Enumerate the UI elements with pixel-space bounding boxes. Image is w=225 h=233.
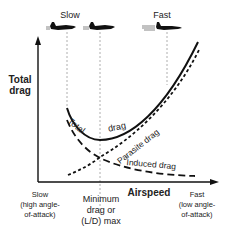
airplane-slow-2-icon — [83, 22, 115, 30]
y-axis-label-line1: Total — [4, 74, 36, 85]
min-drag-annotation-line2: drag or — [76, 205, 126, 216]
slow-annotation-line2: (high angle- — [12, 200, 68, 210]
slow-annotation-line1: Slow — [12, 190, 68, 200]
fast-annotation: Fast (low angle- of-attack) — [170, 190, 224, 220]
fast-annotation-line1: Fast — [170, 190, 224, 200]
total-drag-curve — [67, 42, 198, 140]
y-axis-arrow-icon — [35, 36, 41, 45]
fast-annotation-line3: of-attack) — [170, 210, 224, 220]
min-drag-annotation-line1: Minimum — [76, 194, 126, 205]
min-drag-annotation-line3: (L/D) max — [76, 216, 126, 227]
min-drag-annotation: Minimum drag or (L/D) max — [76, 194, 126, 227]
fast-top-label: Fast — [150, 10, 174, 21]
airplane-fast-icon — [142, 22, 182, 30]
x-axis-arrow-icon — [210, 179, 219, 185]
parasite-drag-curve — [68, 48, 200, 175]
x-axis-label: Airspeed — [124, 188, 174, 198]
slow-top-label: Slow — [58, 10, 82, 21]
y-axis-label: Total drag — [4, 74, 36, 96]
airplane-slow-1-icon — [46, 22, 76, 30]
fast-annotation-line2: (low angle- — [170, 200, 224, 210]
slow-annotation-line3: of-attack) — [12, 210, 68, 220]
y-axis-label-line2: drag — [4, 85, 36, 96]
slow-annotation: Slow (high angle- of-attack) — [12, 190, 68, 220]
